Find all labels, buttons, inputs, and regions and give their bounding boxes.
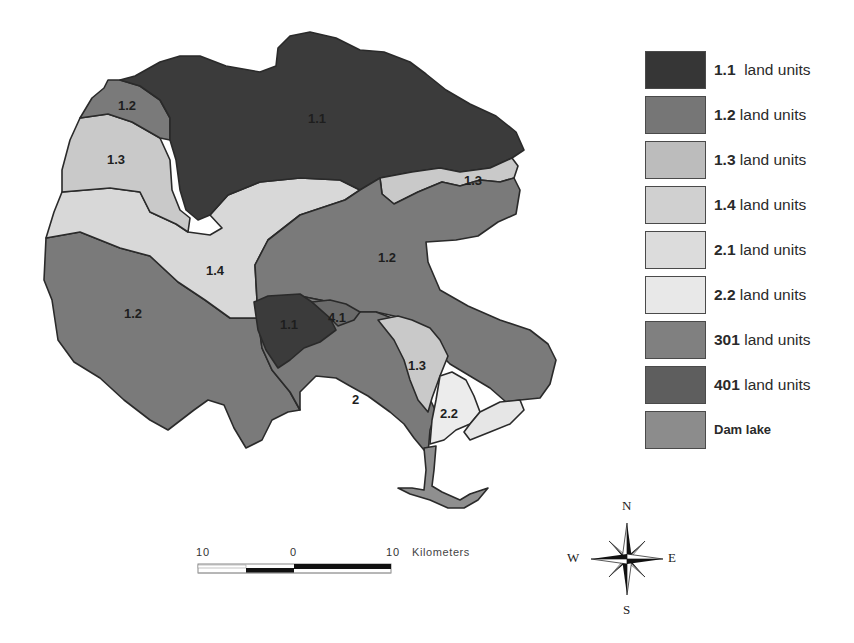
legend-code: Dam lake: [714, 422, 771, 437]
legend-swatch: [645, 186, 706, 224]
legend-swatch: [645, 141, 706, 179]
legend-text: land units: [736, 241, 807, 258]
legend-code: 401: [714, 376, 740, 393]
legend-code: 1.1: [714, 61, 736, 78]
legend-code: 2.1: [714, 241, 736, 258]
compass-rose-icon: [560, 498, 690, 623]
legend-code: 1.3: [714, 151, 736, 168]
label-region-1-2-east: 1.2: [378, 250, 396, 265]
legend-text: land units: [740, 331, 811, 348]
label-region-1-1-north: 1.1: [308, 111, 326, 126]
map-legend: 1.1 land units 1.2 land units 1.3 land u…: [645, 47, 850, 452]
legend-item-1-3: 1.3 land units: [645, 137, 850, 182]
scale-tick-zero: 0: [290, 546, 297, 558]
legend-swatch: [645, 51, 706, 89]
legend-swatch: [645, 231, 706, 269]
label-region-1-2-south: 2: [352, 392, 359, 407]
scale-unit-label: Kilometers: [412, 546, 470, 558]
scale-bar-graphic: [196, 562, 496, 592]
scale-tick-left: 10: [196, 546, 210, 558]
scale-tick-right: 10: [386, 546, 400, 558]
legend-text: land units: [736, 286, 807, 303]
legend-code: 2.2: [714, 286, 736, 303]
legend-text: land units: [736, 151, 807, 168]
legend-swatch: [645, 321, 706, 359]
label-region-1-2-southwest: 1.2: [124, 306, 142, 321]
label-region-1-3-northwest: 1.3: [107, 152, 125, 167]
legend-item-301: 301 land units: [645, 317, 850, 362]
legend-item-2-2: 2.2 land units: [645, 272, 850, 317]
legend-swatch: [645, 366, 706, 404]
legend-text: land units: [740, 376, 811, 393]
legend-code: 1.2: [714, 106, 736, 123]
legend-item-1-1: 1.1 land units: [645, 47, 850, 92]
label-region-1-3-south: 1.3: [408, 358, 426, 373]
scale-bar: 10 0 10 Kilometers: [196, 546, 496, 586]
label-region-2-2-south: 2.2: [440, 406, 458, 421]
legend-swatch: [645, 411, 706, 449]
label-region-1-4-central: 1.4: [206, 263, 225, 278]
legend-text: land units: [736, 61, 811, 78]
label-region-4-1: 4.1: [328, 310, 346, 325]
legend-text: land units: [736, 106, 807, 123]
legend-item-2-1: 2.1 land units: [645, 227, 850, 272]
legend-swatch: [645, 276, 706, 314]
legend-item-1-2: 1.2 land units: [645, 92, 850, 137]
region-dam-lake: [398, 446, 488, 508]
north-arrow: N S W E: [560, 498, 690, 623]
label-region-1-1-south: 1.1: [280, 317, 298, 332]
legend-swatch: [645, 96, 706, 134]
legend-item-401: 401 land units: [645, 362, 850, 407]
legend-code: 1.4: [714, 196, 736, 213]
legend-code: 301: [714, 331, 740, 348]
label-region-1-2-northwest: 1.2: [118, 98, 136, 113]
label-region-1-3-northeast: 1.3: [464, 173, 482, 188]
legend-item-1-4: 1.4 land units: [645, 182, 850, 227]
legend-item-dam-lake: Dam lake: [645, 407, 850, 452]
legend-text: land units: [736, 196, 807, 213]
